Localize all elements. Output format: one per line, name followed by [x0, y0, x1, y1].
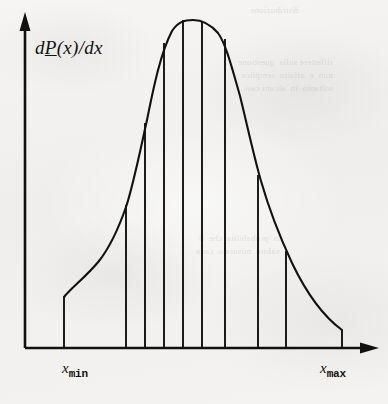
y-axis-label-symbol: P	[45, 37, 57, 58]
x-axis-arrowhead	[360, 343, 379, 354]
figure-page: distribuzione riflettere sulla questione…	[0, 0, 388, 404]
x-max-tick-label: xmax	[320, 360, 346, 380]
density-curve	[64, 20, 342, 330]
y-axis-label: dP(x)/dx	[35, 37, 103, 59]
histogram-bin-dividers	[64, 20, 342, 348]
y-axis-arrowhead	[20, 12, 31, 31]
x-max-subscript: max	[327, 368, 346, 380]
y-axis-label-argument: (x)	[57, 37, 79, 58]
y-axis-label-prefix: d	[35, 37, 45, 58]
x-max-symbol: x	[320, 360, 327, 376]
y-axis-label-suffix: /dx	[79, 37, 103, 58]
x-min-tick-label: xmin	[62, 360, 88, 380]
distribution-figure	[0, 0, 388, 404]
x-min-subscript: min	[69, 368, 88, 380]
x-min-symbol: x	[62, 360, 69, 376]
